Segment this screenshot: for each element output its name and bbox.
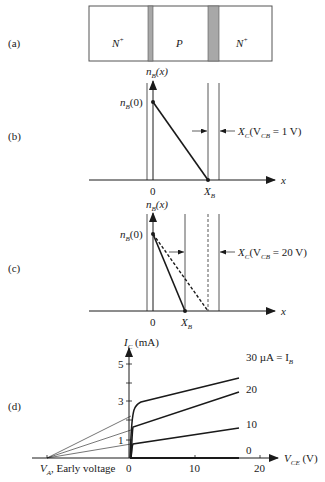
nb-axis-label: nB(x): [146, 65, 168, 80]
minority-carrier-profile: [153, 102, 208, 180]
y-tick-5: 5: [118, 358, 124, 370]
bjt-figure: (a) N+ P N+ (b) nB(x) nB(0) x 0 XB XC(VC…: [0, 0, 325, 482]
y-tick-3: 3: [118, 395, 124, 407]
panel-a-label: (a): [8, 37, 21, 50]
curve-label-20: 20: [246, 383, 258, 395]
x-tick-10: 10: [189, 462, 201, 474]
xc-label: XC(VCB = 1 V): [237, 125, 302, 140]
x-tick-0: 0: [126, 462, 132, 474]
panel-d: (d) IC (mA) 1 3 5 0 10 20 VCE (V) VA, Ea…: [8, 336, 318, 477]
curve-label-10: 10: [246, 418, 258, 430]
x-label-c: x: [280, 305, 286, 317]
curve-label-0: 0: [246, 444, 252, 456]
panel-b-label: (b): [8, 130, 21, 143]
npn-structure-box: [89, 6, 272, 61]
zero-tick: 0: [150, 185, 156, 197]
zero-tick-c: 0: [150, 316, 156, 328]
early-voltage-label: VA, Early voltage: [40, 462, 116, 477]
early-extrapolation-10: [47, 444, 131, 458]
base-region-label: P: [175, 37, 183, 49]
panel-a: (a) N+ P N+: [8, 6, 272, 61]
nb-axis-label-c: nB(x): [146, 198, 168, 213]
panel-d-label: (d): [8, 400, 21, 413]
curve-label-30: 30 µA = IB: [246, 351, 294, 366]
nb0-label: nB(0): [120, 96, 143, 111]
emitter-base-depletion: [148, 6, 153, 61]
xb-label-c: XB: [180, 316, 193, 331]
curve-ib-20: [131, 392, 239, 458]
collector-base-depletion: [208, 6, 219, 61]
curve-ib-10: [131, 428, 239, 458]
xc-label-c: XC(VCB = 20 V): [237, 246, 307, 261]
panel-c: (c) nB(x) nB(0) x 0 XB XC(VCB = 20 V): [8, 198, 307, 331]
x-label: x: [280, 174, 286, 186]
panel-b: (b) nB(x) nB(0) x 0 XB XC(VCB = 1 V): [8, 65, 302, 200]
y-tick-1: 1: [118, 434, 124, 446]
vce-axis-label: VCE (V): [284, 452, 318, 467]
panel-c-label: (c): [8, 262, 21, 275]
x-tick-20: 20: [254, 462, 266, 474]
xb-label: XB: [203, 185, 216, 200]
ic-axis-label: IC (mA): [123, 336, 159, 351]
curve-ib-30: [130, 378, 239, 458]
nb0-label-c: nB(0): [120, 228, 143, 243]
